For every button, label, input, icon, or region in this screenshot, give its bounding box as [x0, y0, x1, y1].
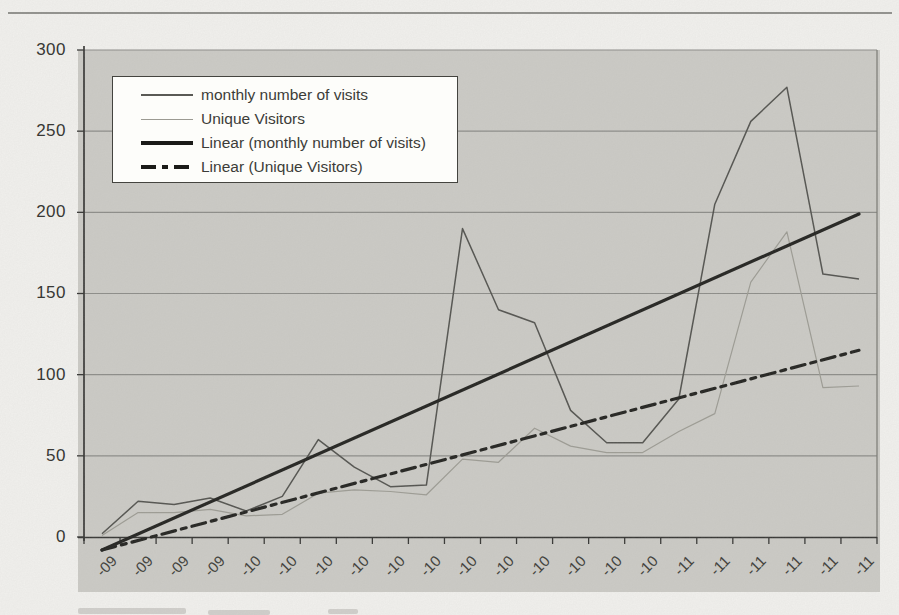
- legend-item: monthly number of visits: [141, 83, 457, 107]
- y-axis-label: 300: [18, 41, 66, 59]
- chart-legend: monthly number of visitsUnique VisitorsL…: [112, 76, 458, 183]
- x-axis-label: -11: [830, 552, 877, 592]
- scanned-line-chart: 300 250 200 150 100 50 0 -09-09-09-09-10…: [0, 0, 899, 615]
- y-axis-label: 100: [18, 366, 66, 384]
- caption-fragment: [78, 608, 186, 614]
- y-axis-label: 50: [18, 447, 66, 465]
- y-axis-label: 150: [18, 284, 66, 302]
- legend-item: Unique Visitors: [141, 107, 457, 131]
- legend-label: Linear (Unique Visitors): [201, 158, 363, 176]
- legend-swatch-trend-solid: [141, 141, 193, 145]
- legend-swatch-thin-dark: [141, 94, 193, 96]
- legend-item: Linear (monthly number of visits): [141, 131, 457, 155]
- legend-swatch-trend-dashdot: [141, 165, 193, 169]
- x-axis-labels: -09-09-09-09-10-10-10-10-10-10-10-10-10-…: [0, 540, 899, 592]
- caption-fragment: [328, 609, 358, 614]
- legend-swatch-thin-light: [141, 119, 193, 120]
- y-axis-label: 200: [18, 203, 66, 221]
- y-axis-label: 250: [18, 122, 66, 140]
- caption-fragment: [208, 610, 270, 615]
- legend-label: monthly number of visits: [201, 86, 368, 104]
- legend-label: Linear (monthly number of visits): [201, 134, 426, 152]
- legend-item: Linear (Unique Visitors): [141, 155, 457, 179]
- legend-label: Unique Visitors: [201, 110, 305, 128]
